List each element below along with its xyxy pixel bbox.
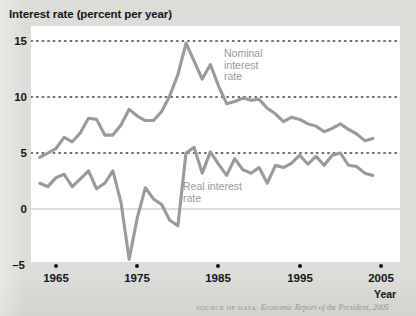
source-note: SOURCE OF DATA: Economic Report of the P… bbox=[196, 303, 389, 312]
chart-title: Interest rate (percent per year) bbox=[9, 8, 172, 20]
x-tick-dot-1985 bbox=[216, 264, 220, 268]
chart-canvas bbox=[31, 26, 400, 262]
real-annotation-line-1: Real interest bbox=[183, 181, 242, 193]
x-tick-dot-2005 bbox=[379, 264, 383, 268]
x-tick-dot-1965 bbox=[54, 264, 58, 268]
x-tick-dot-1975 bbox=[135, 264, 139, 268]
x-tick-label-1965: 1965 bbox=[33, 272, 79, 284]
nominal-annotation-line-3: rate bbox=[224, 71, 263, 83]
real-annotation-line-2: rate bbox=[183, 193, 242, 205]
plot-area bbox=[31, 26, 400, 262]
real-series-annotation: Real interest rate bbox=[183, 181, 242, 204]
x-tick-label-1975: 1975 bbox=[114, 272, 160, 284]
nominal-series-annotation: Nominal interest rate bbox=[224, 48, 263, 83]
y-tick-label-15: 15 bbox=[1, 35, 27, 47]
y-tick-label-5: 5 bbox=[1, 147, 27, 159]
x-tick-label-1995: 1995 bbox=[277, 272, 323, 284]
source-prefix: SOURCE OF DATA: bbox=[196, 304, 259, 311]
x-tick-label-2005: 2005 bbox=[358, 272, 404, 284]
source-text: Economic Report of the President, 2005 bbox=[261, 303, 389, 312]
x-tick-dot-1995 bbox=[298, 264, 302, 268]
y-tick-label-neg5: –5 bbox=[0, 259, 25, 271]
x-tick-label-1985: 1985 bbox=[195, 272, 241, 284]
x-axis-title: Year bbox=[374, 288, 396, 300]
y-tick-label-0: 0 bbox=[1, 203, 27, 215]
y-tick-label-10: 10 bbox=[1, 91, 27, 103]
nominal-annotation-line-1: Nominal bbox=[224, 48, 263, 60]
